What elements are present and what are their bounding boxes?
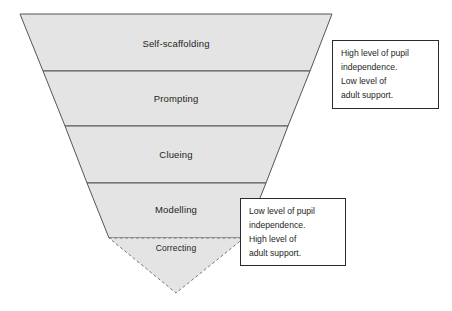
tier-label-prompting: Prompting [154, 93, 199, 104]
diagram-canvas: Self-scaffolding Prompting Clueing Model… [0, 0, 452, 311]
tier-label-correcting: Correcting [156, 243, 197, 253]
note-line: Low level of [341, 75, 430, 89]
tier-label-modelling: Modelling [155, 204, 197, 215]
note-box-low-independence: Low level of pupil independence. High le… [240, 198, 346, 266]
tier-label-clueing: Clueing [159, 149, 192, 160]
note-line: Low level of pupil [249, 205, 337, 219]
note-line: independence. [249, 219, 337, 233]
note-line: adult support. [249, 247, 337, 261]
note-line: adult support. [341, 89, 430, 103]
note-line: High level of pupil [341, 47, 430, 61]
note-box-high-independence: High level of pupil independence. Low le… [332, 40, 439, 109]
tier-label-self-scaffolding: Self-scaffolding [142, 38, 209, 49]
note-line: High level of [249, 233, 337, 247]
note-line: independence. [341, 61, 430, 75]
